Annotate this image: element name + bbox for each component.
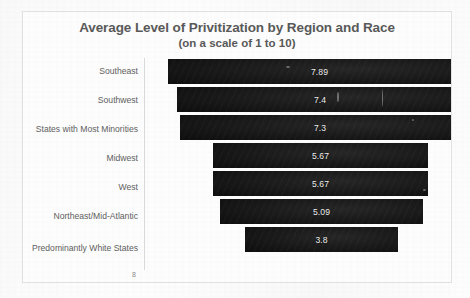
- category-label-west: West: [119, 174, 138, 200]
- bar-value-west: 5.67: [312, 179, 329, 189]
- category-label-midwest: Midwest: [106, 145, 138, 171]
- bar-value-predominantly-white-states: 3.8: [315, 235, 327, 245]
- category-label-southwest: Southwest: [98, 87, 138, 113]
- bar-value-southwest: 7.4: [314, 95, 326, 105]
- scan-speck: [412, 119, 414, 121]
- category-axis: Southeast Southwest States with Most Min…: [23, 58, 144, 283]
- bar-west[interactable]: 5.67: [213, 171, 428, 196]
- chart-title: Average Level of Privitization by Region…: [23, 20, 451, 36]
- bar-states-with-most-minorities[interactable]: 7.3: [180, 115, 452, 140]
- bar-value-northeast-mid-atlantic: 5.09: [313, 207, 330, 217]
- category-label-predominantly-white-states: Predominantly White States: [32, 235, 138, 261]
- bar-value-states-with-most-minorities: 7.3: [314, 123, 326, 133]
- chart-subtitle: (on a scale of 1 to 10): [23, 36, 451, 51]
- category-label-northeast-mid-atlantic: Northeast/Mid-Atlantic: [53, 203, 138, 229]
- bar-predominantly-white-states[interactable]: 3.8: [245, 227, 398, 252]
- scan-speck: [423, 189, 426, 191]
- chart-title-block: Average Level of Privitization by Region…: [23, 20, 451, 51]
- category-label-states-with-most-minorities: States with Most Minorities: [36, 116, 138, 142]
- bar-value-southeast: 7.89: [311, 67, 328, 77]
- scan-speck: [337, 92, 339, 102]
- category-label-southeast: Southeast: [99, 58, 138, 84]
- bars-area: 7.89 7.4 7.3 5.67: [145, 58, 452, 283]
- scan-speck: [286, 66, 290, 68]
- chart-container: Average Level of Privitization by Region…: [22, 11, 452, 283]
- bar-northeast-mid-atlantic[interactable]: 5.09: [220, 199, 423, 224]
- bar-southeast[interactable]: 7.89: [168, 59, 452, 84]
- bar-value-midwest: 5.67: [312, 151, 329, 161]
- plot-area: Southeast Southwest States with Most Min…: [23, 58, 452, 283]
- bar-midwest[interactable]: 5.67: [213, 143, 428, 168]
- scan-speck: [382, 89, 383, 107]
- bar-southwest[interactable]: 7.4: [177, 87, 452, 112]
- page-number: 8: [132, 271, 136, 278]
